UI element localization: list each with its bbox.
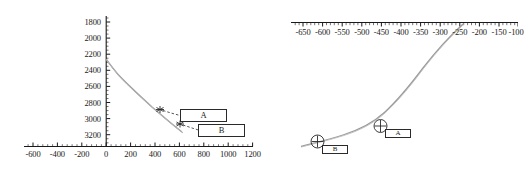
right-callout-box-a[interactable]: A — [385, 129, 411, 138]
right-callout-box-b[interactable]: B — [322, 145, 348, 154]
left-x-tick-label: 1000 — [220, 150, 237, 159]
left-x-tick-label: 800 — [198, 150, 210, 159]
left-x-tick-label: 600 — [173, 150, 185, 159]
left-x-tick-label: -200 — [74, 150, 89, 159]
right-x-tick-label: -200 — [472, 28, 487, 37]
left-chart-panel: -600 -400 -200 0 200 400 600 800 1000 12… — [0, 0, 259, 172]
left-y-tick-label: 2400 — [77, 66, 101, 75]
right-x-tick-label: -500 — [354, 28, 369, 37]
left-y-tick-label: 2000 — [77, 34, 101, 43]
left-x-tick-label: 200 — [124, 150, 136, 159]
left-y-tick-label: 1800 — [77, 18, 101, 27]
left-x-tick-label: -600 — [25, 150, 40, 159]
left-y-tick-label: 2200 — [77, 50, 101, 59]
right-x-tick-label: -350 — [413, 28, 428, 37]
left-y-tick-label: 2600 — [77, 82, 101, 91]
right-x-tick-label: -550 — [335, 28, 350, 37]
left-x-tick-label: 0 — [104, 150, 108, 159]
left-y-tick-label: 3000 — [77, 114, 101, 123]
left-chart-canvas — [0, 0, 259, 172]
right-x-tick-label: -300 — [433, 28, 448, 37]
left-curve-primary — [106, 59, 182, 132]
right-chart-panel: -650 -600 -550 -500 -450 -400 -350 -300 … — [259, 0, 518, 172]
left-x-tick-label: -400 — [50, 150, 65, 159]
right-x-tick-label: -450 — [374, 28, 389, 37]
right-x-tick-label: -650 — [295, 28, 310, 37]
left-callout-box-a[interactable]: A — [180, 109, 227, 122]
left-y-tick-label: 2800 — [77, 98, 101, 107]
right-x-tick-label: -150 — [491, 28, 506, 37]
right-curve-secondary — [301, 25, 463, 147]
right-curve-primary — [301, 24, 463, 147]
left-leader-line-a — [163, 111, 180, 116]
left-y-tick-label: 3200 — [77, 130, 101, 139]
left-x-tick-label: 400 — [149, 150, 161, 159]
right-x-tick-label: -100 — [508, 28, 523, 37]
right-x-tick-label: -600 — [315, 28, 330, 37]
right-x-tick-label: -400 — [393, 28, 408, 37]
left-x-major-ticks — [33, 143, 253, 147]
left-curve-secondary — [106, 60, 183, 133]
right-x-tick-label: -250 — [452, 28, 467, 37]
left-callout-box-b[interactable]: B — [198, 124, 245, 137]
right-chart-canvas — [259, 0, 518, 172]
